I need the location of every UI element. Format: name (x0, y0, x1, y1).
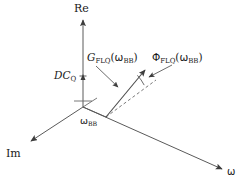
dc-subscript: Q (70, 75, 76, 83)
dc-symbol: DC (54, 69, 70, 81)
reference-line-dashed (106, 80, 156, 117)
phase-angle-arc (137, 75, 144, 85)
phase-leader-line (149, 65, 172, 77)
dc-offset-label: DCQ (54, 70, 76, 81)
magnitude-paren-close: ) (134, 51, 138, 63)
im-axis-backward-stub (83, 98, 97, 107)
operating-frequency-label: ωBB (80, 116, 97, 126)
operating-frequency-glyph: ω (80, 115, 88, 126)
omega-axis-label: ω (227, 167, 235, 177)
omega-glyph: ω (227, 166, 235, 177)
figure-canvas: Re Im ω DCQ GFLQ(ωBB) ΦFLQ(ωBB) ωBB (0, 0, 241, 184)
phase-argument-glyph: ω (179, 51, 188, 63)
re-axis-label: Re (74, 3, 89, 14)
phase-subscript: FLQ (160, 57, 175, 65)
im-axis-line (31, 107, 83, 141)
magnitude-leader-line (96, 66, 118, 87)
phase-argument-subscript: BB (188, 57, 198, 65)
phase-paren-close: ) (198, 51, 202, 63)
diagram-vector-graphics (0, 0, 241, 184)
im-axis-label: Im (6, 148, 21, 159)
re-axis-tick-dcq-marker (81, 74, 86, 80)
magnitude-argument-subscript: BB (123, 57, 133, 65)
phase-label: ΦFLQ(ωBB) (152, 52, 203, 63)
operating-frequency-subscript: BB (88, 120, 97, 127)
magnitude-subscript: FLQ (95, 57, 110, 65)
magnitude-label: GFLQ(ωBB) (87, 52, 138, 63)
